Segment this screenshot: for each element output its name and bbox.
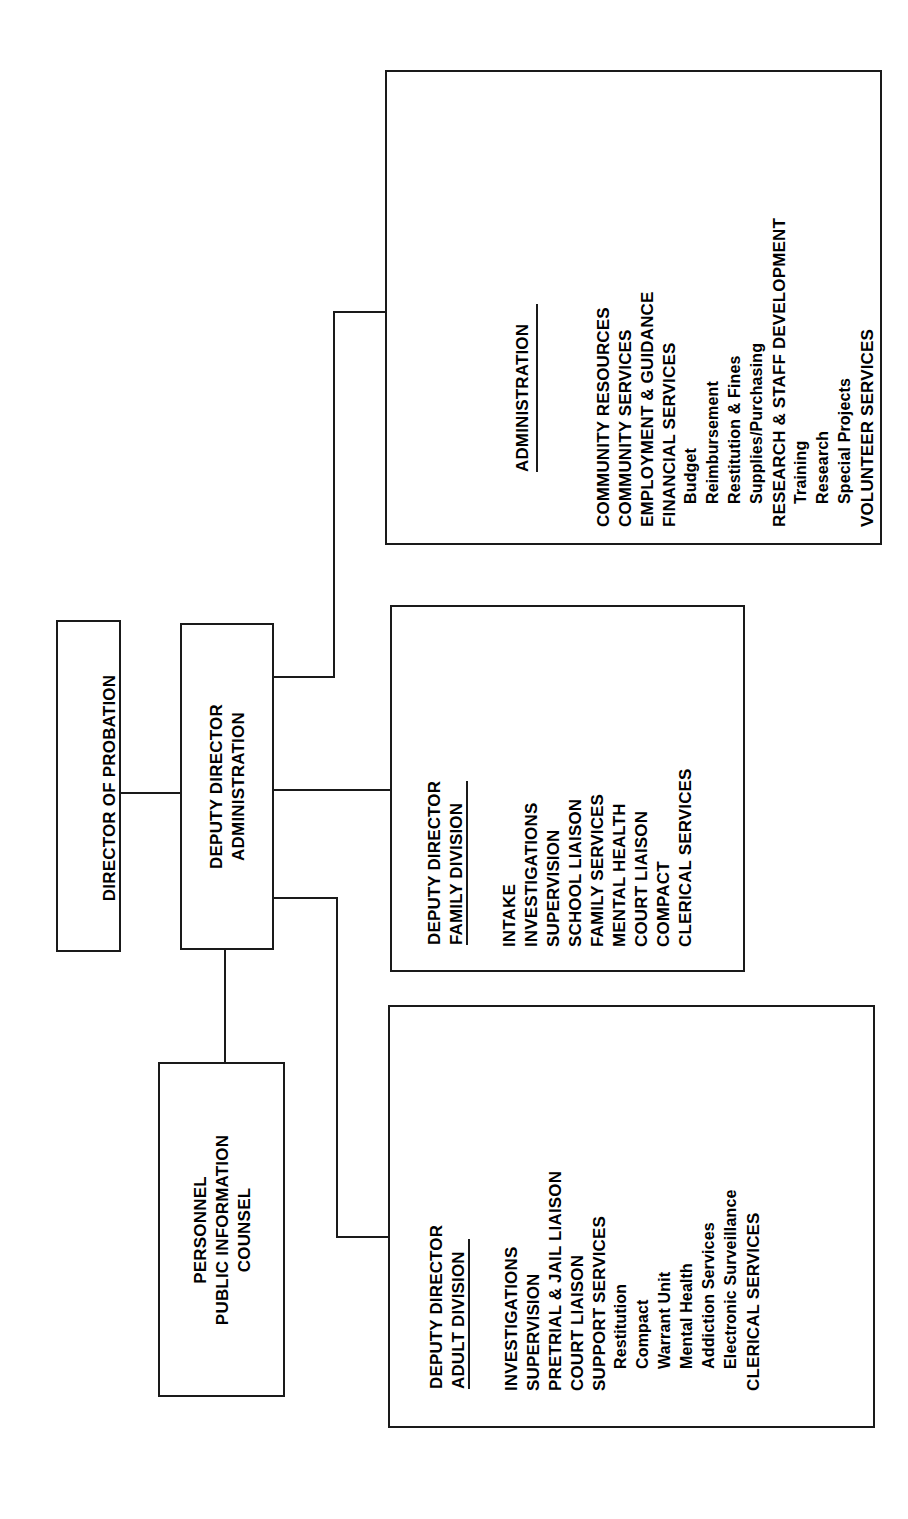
adult-item-4: SUPPORT SERVICES [590,1216,610,1391]
administration-heading: ADMINISTRATION [513,324,533,472]
administration-item-1: COMMUNITY SERVICES [616,329,636,527]
family-item-6: COURT LIAISON [632,811,652,947]
family-item-0: INTAKE [500,884,520,947]
adult-item-1: SUPERVISION [524,1273,544,1391]
administration-item-12: VOLUNTEER SERVICES [858,329,878,527]
adult-item-11: CLERICAL SERVICES [744,1212,764,1391]
administration-heading-underline [536,304,538,472]
administration-item-3: FINANCIAL SERVICES [660,343,680,527]
staff-line2: PUBLIC INFORMATION [213,1135,232,1325]
adult-heading-line1: DEPUTY DIRECTOR [427,1225,447,1389]
adult-item-10: Electronic Surveillance [722,1189,740,1369]
adult-item-5: Restitution [612,1284,630,1369]
administration-item-7: Supplies/Purchasing [748,343,766,504]
box-personnel-public-information-counsel[interactable]: PERSONNEL PUBLIC INFORMATION COUNSEL [158,1062,285,1397]
administration-item-8: RESEARCH & STAFF DEVELOPMENT [770,218,790,527]
deputy-admin-line1: DEPUTY DIRECTOR [207,704,226,869]
box-deputy-director-administration[interactable]: DEPUTY DIRECTOR ADMINISTRATION [180,623,274,950]
family-heading-line2: FAMILY DIVISION [447,803,467,945]
administration-item-10: Research [814,431,832,504]
adult-heading-line2: ADULT DIVISION [449,1251,469,1389]
family-item-1: INVESTIGATIONS [522,803,542,947]
family-item-2: SUPERVISION [544,829,564,947]
adult-item-6: Compact [634,1299,652,1369]
adult-item-8: Mental Health [678,1263,696,1369]
box-director-of-probation[interactable]: DIRECTOR OF PROBATION [56,620,121,952]
box-family-division[interactable]: DEPUTY DIRECTOR FAMILY DIVISION INTAKE I… [390,605,745,972]
adult-item-9: Addiction Services [700,1222,718,1369]
connector-adult-stub [273,897,337,899]
administration-item-11: Special Projects [836,378,854,504]
adult-heading-underline [468,1239,470,1389]
staff-line3: COUNSEL [235,1188,254,1273]
administration-item-0: COMMUNITY RESOURCES [594,307,614,527]
family-item-4: FAMILY SERVICES [588,794,608,947]
adult-item-7: Warrant Unit [656,1272,674,1369]
adult-item-0: INVESTIGATIONS [502,1247,522,1391]
family-item-7: COMPACT [654,861,674,947]
org-chart-canvas: DIRECTOR OF PROBATION DEPUTY DIRECTOR AD… [0,0,908,1519]
box-administration[interactable]: ADMINISTRATION COMMUNITY RESOURCES COMMU… [385,70,882,545]
connector-staff [224,949,226,1063]
family-heading-underline [466,781,468,945]
connector-adult-riser [336,897,338,1237]
family-item-8: CLERICAL SERVICES [676,768,696,947]
administration-item-9: Training [792,441,810,504]
administration-item-4: Budget [682,448,700,504]
administration-item-6: Restitution & Fines [726,355,744,504]
staff-line1: PERSONNEL [191,1176,210,1284]
connector-admin-riser [333,311,335,678]
adult-item-2: PRETRIAL & JAIL LIAISON [546,1171,566,1391]
deputy-admin-line2: ADMINISTRATION [229,712,248,861]
staff-title: PERSONNEL PUBLIC INFORMATION COUNSEL [190,1074,255,1386]
administration-item-2: EMPLOYMENT & GUIDANCE [638,292,658,528]
family-item-3: SCHOOL LIAISON [566,799,586,947]
adult-item-3: COURT LIAISON [568,1255,588,1391]
connector-admin-arm [333,311,386,313]
box-adult-division[interactable]: DEPUTY DIRECTOR ADULT DIVISION INVESTIGA… [388,1005,875,1428]
connector-adult-arm [336,1236,389,1238]
family-item-5: MENTAL HEALTH [610,803,630,947]
connector-admin-stub [273,676,335,678]
administration-item-5: Reimbursement [704,381,722,504]
family-heading-line1: DEPUTY DIRECTOR [425,781,445,945]
connector-director-to-deputy [120,792,181,794]
director-title: DIRECTOR OF PROBATION [99,632,121,944]
connector-family [273,789,391,791]
deputy-admin-title: DEPUTY DIRECTOR ADMINISTRATION [206,634,250,939]
